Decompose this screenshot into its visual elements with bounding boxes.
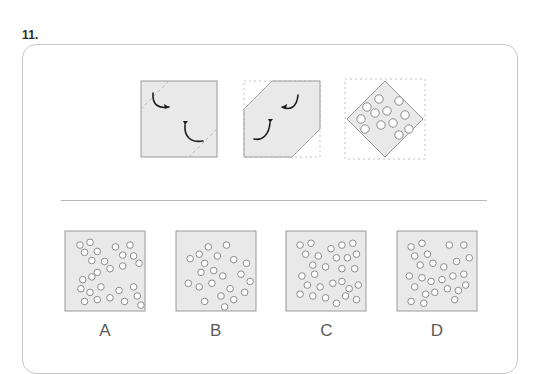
hole-1 xyxy=(77,242,84,249)
punch-hole-6 xyxy=(395,97,403,105)
hole-5 xyxy=(310,262,317,269)
hole-23 xyxy=(339,278,346,285)
hole-6 xyxy=(328,245,335,252)
hole-21 xyxy=(462,282,469,289)
hole-19 xyxy=(98,284,105,291)
option-d-figure[interactable] xyxy=(391,228,483,316)
option-b-figure[interactable] xyxy=(170,228,262,316)
hole-10 xyxy=(197,269,204,276)
hole-16 xyxy=(439,276,446,283)
hole-18 xyxy=(317,284,324,291)
hole-4 xyxy=(424,251,431,258)
hole-3 xyxy=(81,249,88,256)
question-card: A B C D xyxy=(22,44,518,374)
hole-26 xyxy=(134,293,141,300)
hole-1 xyxy=(408,244,415,251)
hole-20 xyxy=(94,296,101,303)
hole-21 xyxy=(107,295,114,302)
hole-26 xyxy=(343,293,350,300)
punch-hole-11 xyxy=(395,131,403,139)
hole-6 xyxy=(101,258,108,265)
panel-fold-step1 xyxy=(133,73,225,165)
hole-5 xyxy=(89,257,96,264)
option-c-label: C xyxy=(320,322,332,339)
paper-sheet-square xyxy=(141,81,217,157)
option-d-label: D xyxy=(431,322,443,339)
hole-24 xyxy=(408,298,415,305)
stimulus-sequence xyxy=(23,73,519,183)
hole-15 xyxy=(208,280,215,287)
hole-27 xyxy=(353,296,360,303)
hole-8 xyxy=(230,256,237,263)
hole-20 xyxy=(455,287,462,294)
paper-sheet-hexagon xyxy=(244,81,320,157)
option-d[interactable]: D xyxy=(391,228,483,353)
hole-22 xyxy=(330,280,337,287)
fold-step2-figure xyxy=(236,73,328,165)
punch-step3-figure xyxy=(339,73,431,165)
hole-7 xyxy=(446,242,453,249)
hole-13 xyxy=(419,275,426,282)
hole-8 xyxy=(350,240,357,247)
hole-1 xyxy=(297,242,304,249)
hole-10 xyxy=(440,264,447,271)
hole-14 xyxy=(94,269,101,276)
hole-1 xyxy=(196,251,203,258)
punch-hole-12 xyxy=(405,125,413,133)
hole-24 xyxy=(346,285,353,292)
hole-9 xyxy=(466,255,473,262)
hole-22 xyxy=(422,291,429,298)
hole-12 xyxy=(107,265,114,272)
hole-16 xyxy=(89,274,96,281)
hole-18 xyxy=(230,296,237,303)
option-c[interactable]: C xyxy=(280,228,372,353)
punch-hole-5 xyxy=(383,107,391,115)
hole-5 xyxy=(214,253,221,260)
hole-6 xyxy=(430,260,437,267)
hole-7 xyxy=(339,242,346,249)
hole-4 xyxy=(201,260,208,267)
hole-15 xyxy=(428,278,435,285)
option-c-figure[interactable] xyxy=(280,228,372,316)
hole-13 xyxy=(119,263,126,270)
hole-19 xyxy=(297,291,304,298)
hole-21 xyxy=(221,304,228,311)
hole-28 xyxy=(333,300,340,307)
panel-punch-step3 xyxy=(339,73,431,165)
hole-13 xyxy=(339,265,346,272)
punch-hole-8 xyxy=(377,121,385,129)
hole-2 xyxy=(419,240,426,247)
hole-11 xyxy=(453,258,460,265)
hole-10 xyxy=(130,253,137,260)
hole-11 xyxy=(353,251,360,258)
answer-options-row: A B C D xyxy=(23,228,519,353)
punch-hole-10 xyxy=(401,111,409,119)
option-a-label: A xyxy=(99,322,110,339)
punch-hole-2 xyxy=(375,95,383,103)
option-a[interactable]: A xyxy=(59,228,151,353)
hole-9 xyxy=(127,242,134,249)
option-a-figure[interactable] xyxy=(59,228,151,316)
hole-16 xyxy=(226,285,233,292)
hole-17 xyxy=(217,293,224,300)
hole-2 xyxy=(205,244,212,251)
hole-23 xyxy=(116,287,123,294)
hole-17 xyxy=(78,285,85,292)
hole-23 xyxy=(431,289,438,296)
hole-26 xyxy=(451,296,458,303)
punch-hole-4 xyxy=(371,109,379,117)
hole-6 xyxy=(223,242,230,249)
hole-25 xyxy=(355,282,362,289)
option-b[interactable]: B xyxy=(170,228,262,353)
panel-fold-step2 xyxy=(236,73,328,165)
hole-14 xyxy=(196,284,203,291)
fold-step1-figure xyxy=(133,73,225,165)
hole-7 xyxy=(210,267,217,274)
hole-22 xyxy=(81,298,88,305)
hole-22 xyxy=(246,278,253,285)
hole-18 xyxy=(460,271,467,278)
hole-19 xyxy=(241,289,248,296)
hole-3 xyxy=(411,253,418,260)
hole-8 xyxy=(119,252,126,259)
hole-4 xyxy=(315,253,322,260)
